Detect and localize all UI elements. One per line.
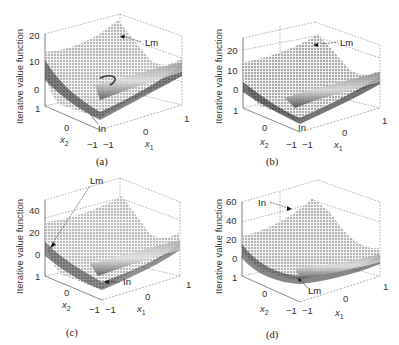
x1-tick: 1 <box>382 116 387 126</box>
x1-tick: −1 <box>103 140 114 150</box>
x1-tick: 0 <box>145 292 150 302</box>
x2-tick: 1 <box>233 106 238 116</box>
x1-tick: 0 <box>342 128 347 138</box>
x1-tick: 1 <box>186 280 191 290</box>
z-tick: 20 <box>29 228 40 238</box>
z-tick: 0 <box>35 250 40 260</box>
x1-tick: −1 <box>105 305 116 315</box>
z-tick: 20 <box>226 235 237 245</box>
x1-axis-label: x1 <box>145 139 154 151</box>
x2-tick: −1 <box>286 306 297 316</box>
x2-tick: −1 <box>87 140 98 150</box>
caption-c: (c) <box>66 328 78 339</box>
x1-tick: 1 <box>383 282 388 292</box>
surface-plot-c <box>0 172 199 344</box>
z-tick: 60 <box>226 197 237 207</box>
x2-tick: 0 <box>262 123 267 133</box>
panel-a: Iterative value function 20 10 0 1 0 −1 … <box>0 0 199 172</box>
z-axis-label: Iterative value function <box>14 29 25 124</box>
x2-tick: 0 <box>64 123 69 133</box>
z-axis-label: Iterative value function <box>14 199 25 294</box>
caption-a: (a) <box>96 157 108 168</box>
x2-tick: 1 <box>35 104 40 114</box>
annotation-in: In <box>298 123 306 133</box>
annotation-lm: Lm <box>340 38 353 48</box>
x1-tick: −1 <box>302 306 313 316</box>
caption-b: (b) <box>266 157 278 168</box>
annotation-in: In <box>258 198 266 208</box>
annotation-lm: Lm <box>308 286 321 296</box>
surface-plot-a <box>0 0 199 172</box>
x2-tick: 0 <box>64 288 69 298</box>
annotation-lm: Lm <box>145 38 158 48</box>
x1-tick: 0 <box>343 294 348 304</box>
annotation-lm: Lm <box>90 176 103 186</box>
x2-axis-label: x2 <box>260 137 269 149</box>
panel-d: Iterative value function 60 40 20 0 1 0 … <box>200 172 399 344</box>
panel-c: Iterative value function 40 20 0 1 0 −1 … <box>0 172 199 344</box>
x2-axis-label: x2 <box>260 304 269 316</box>
x1-tick: 1 <box>184 114 189 124</box>
z-tick: 40 <box>226 216 237 226</box>
x2-tick: 0 <box>262 289 267 299</box>
z-tick: 0 <box>34 85 39 95</box>
z-axis-label: Iterative value function <box>213 29 224 124</box>
caption-d: (d) <box>266 330 278 341</box>
x2-axis-label: x2 <box>62 300 71 312</box>
z-tick: 40 <box>29 206 40 216</box>
x2-tick: 1 <box>35 272 40 282</box>
x1-axis-label: x1 <box>334 140 343 152</box>
annotation-in: In <box>98 124 106 134</box>
x2-tick: −1 <box>286 140 297 150</box>
x1-axis-label: x1 <box>137 304 146 316</box>
z-tick: 20 <box>227 46 238 56</box>
z-tick: 10 <box>29 57 40 67</box>
z-tick: 0 <box>232 254 237 264</box>
z-axis-label: Iterative value function <box>213 199 224 294</box>
x2-tick: −1 <box>89 305 100 315</box>
x1-tick: −1 <box>302 140 313 150</box>
x1-tick: 0 <box>143 127 148 137</box>
z-tick: 20 <box>29 31 40 41</box>
surface-plot-b <box>200 0 399 172</box>
x2-tick: 1 <box>232 273 237 283</box>
x2-axis-label: x2 <box>60 135 69 147</box>
annotation-in: In <box>123 277 131 287</box>
z-tick: 10 <box>227 66 238 76</box>
z-tick: 0 <box>233 85 238 95</box>
panel-b: Iterative value function 20 10 0 1 0 −1 … <box>200 0 399 172</box>
x1-axis-label: x1 <box>335 308 344 320</box>
